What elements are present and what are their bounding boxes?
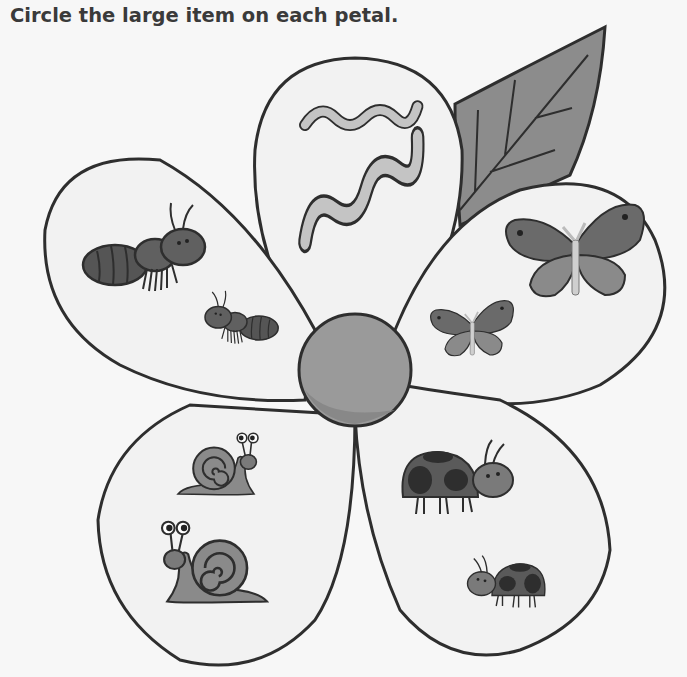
flower-center xyxy=(299,314,411,426)
petal-bottom-right xyxy=(355,385,610,655)
flower-worksheet xyxy=(0,0,687,677)
petal-bottom-left xyxy=(98,405,355,665)
